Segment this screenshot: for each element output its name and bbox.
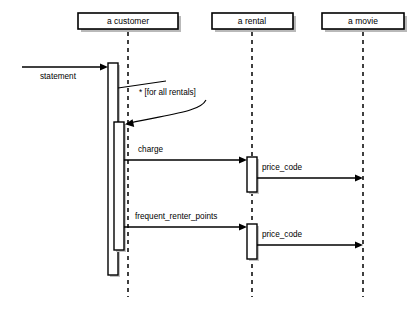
activation-rental-1 [247, 157, 259, 194]
note-leader-line [118, 81, 166, 88]
activation-customer-nested-rect [114, 122, 124, 250]
message-price-code-2-label: price_code [262, 230, 303, 239]
activation-rental-2-rect [247, 224, 257, 259]
message-statement-label: statement [40, 72, 77, 81]
activation-rental-1-rect [247, 157, 257, 192]
message-price-code-1[interactable]: price_code [257, 163, 363, 182]
participant-box-rental[interactable]: a rental [212, 13, 296, 32]
note-curve-arrowhead [125, 119, 134, 127]
message-frequent-renter-points-label: frequent_renter_points [135, 212, 217, 221]
message-charge[interactable]: charge [124, 145, 247, 164]
note-curve-arrow-line [130, 100, 206, 123]
sequence-diagram-svg: a customer a rental a movie [0, 0, 418, 312]
activation-customer-nested [114, 122, 126, 252]
message-statement-arrowhead [100, 63, 108, 70]
message-frequent-renter-points-arrowhead [239, 223, 247, 230]
note-label-for-all-rentals: * [for all rentals] [139, 88, 196, 97]
message-frequent-renter-points[interactable]: frequent_renter_points [124, 212, 247, 231]
message-price-code-2-arrowhead [355, 241, 363, 248]
participant-label-rental: a rental [238, 16, 266, 26]
participant-label-movie: a movie [348, 16, 378, 26]
message-statement[interactable]: statement [22, 63, 108, 81]
sequence-diagram-canvas: a customer a rental a movie [0, 0, 418, 312]
message-price-code-2[interactable]: price_code [257, 230, 363, 249]
note-for-all-rentals[interactable]: * [for all rentals] [118, 81, 206, 127]
message-price-code-1-arrowhead [355, 174, 363, 181]
message-charge-label: charge [138, 145, 163, 154]
message-charge-arrowhead [239, 156, 247, 163]
message-price-code-1-label: price_code [262, 163, 303, 172]
participant-box-movie[interactable]: a movie [322, 13, 407, 32]
activation-rental-2 [247, 224, 259, 261]
participant-box-customer[interactable]: a customer [78, 13, 181, 32]
participant-label-customer: a customer [107, 16, 149, 26]
